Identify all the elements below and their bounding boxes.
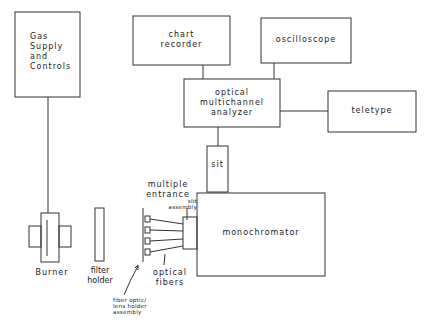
burner-label: Burner [22,268,82,278]
slit-assembly-box [183,217,197,249]
burner-body [41,213,59,262]
multiple-entrance-label: multiple entrance [138,180,198,200]
oma-label: optical multichannel analyzer [184,88,280,118]
monochromator-label: monochromator [197,228,325,238]
slit-assembly-label: slit assembly [165,198,197,210]
teletype-label: teletype [328,106,416,116]
chart-recorder-label: chart recorder [133,30,230,50]
fiber-optic-holder-label: fiber optic/ lens holder assembly [113,297,153,315]
optical-fibers-label: optical fibers [145,268,195,288]
sit-label: sit [207,160,228,170]
diagram-canvas: Gas Supply and Controls chart recorder o… [0,0,427,328]
gas-supply-label: Gas Supply and Controls [30,32,71,72]
oscilloscope-label: oscilloscope [261,35,351,45]
filter-holder-rect [95,208,104,261]
filter-holder-label: filter holder [80,266,120,286]
